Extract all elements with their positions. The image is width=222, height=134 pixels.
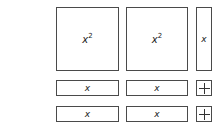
x-tile-row1-1: x: [56, 80, 119, 96]
tile-label: x: [85, 83, 90, 93]
x-tile-vertical: x: [196, 7, 212, 71]
unit-tile-row2: [196, 106, 212, 122]
tile-exponent: 2: [158, 32, 162, 40]
unit-tile-row1: [196, 80, 212, 96]
plus-icon: [199, 83, 210, 94]
tile-label: x: [154, 109, 159, 119]
x-squared-tile-1: x2: [56, 7, 119, 71]
plus-icon: [199, 109, 210, 120]
tile-label: x: [152, 34, 158, 45]
x-squared-tile-2: x2: [126, 7, 188, 71]
x-tile-row2-2: x: [126, 106, 188, 122]
tile-exponent: 2: [88, 32, 92, 40]
x-tile-row2-1: x: [56, 106, 119, 122]
tile-label: x: [201, 34, 206, 44]
x-tile-row1-2: x: [126, 80, 188, 96]
tile-label: x: [85, 109, 90, 119]
tile-label: x: [154, 83, 159, 93]
